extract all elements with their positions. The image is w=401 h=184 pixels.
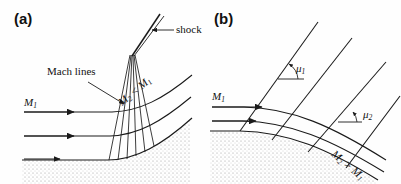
panel-a-shock-line: [132, 14, 160, 56]
panel-a-wall-fill: [22, 120, 190, 184]
panel-b-mach-line: [346, 96, 400, 168]
figure-root: (a): [0, 0, 401, 184]
panel-a-shock-line-edge: [134, 16, 164, 56]
panel-a-mach-line: [135, 55, 154, 146]
panel-b-mu2-arc: [353, 112, 357, 122]
panel-b-expansion: (b): [200, 0, 401, 184]
panel-b-mu2-label: μ2: [363, 108, 372, 122]
panel-a-mach-line: [109, 55, 130, 160]
panel-a-streamline-mid: [24, 97, 191, 136]
panel-b-inflow-mach-label: M1: [212, 90, 225, 104]
panel-b-mach-line: [240, 22, 318, 131]
panel-a-compression: (a): [0, 0, 200, 184]
panel-a-mach-line-family: [109, 55, 154, 160]
panel-b-graphics: [200, 0, 401, 184]
panel-a-graphics: [0, 0, 200, 184]
panel-a-shock-label: shock: [176, 23, 202, 35]
panel-b-mach-line: [308, 62, 386, 152]
panel-b-mach-line: [272, 38, 352, 140]
panel-a-streamline-top: [24, 75, 192, 112]
panel-b-mu1-label: μ1: [296, 62, 305, 76]
panel-a-mach-lines-label: Mach lines: [47, 65, 96, 77]
panel-a-mach-line: [127, 55, 132, 159]
panel-a-inflow-mach-label: M1: [24, 96, 37, 110]
